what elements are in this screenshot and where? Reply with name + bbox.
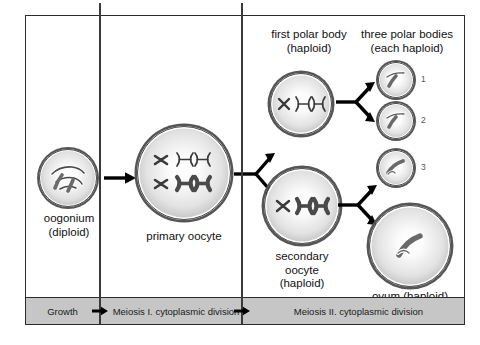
primary-oocyte-chromosomes: [138, 127, 230, 219]
timeline-divider-2: [241, 3, 243, 324]
first-polar-body-chromosomes: [271, 74, 331, 134]
timeline-phase-meiosis-2: Meiosis II. cytoplasmic division: [254, 298, 463, 324]
polar-body-number-1: 1: [421, 74, 426, 84]
timeline-arrow-2: [234, 306, 251, 316]
label-oogonium: oogonium (diploid): [28, 212, 110, 239]
label-three-polar-bodies: three polar bodies (each haploid): [348, 28, 466, 55]
polar-body-number-2: 2: [421, 115, 426, 125]
label-primary-oocyte: primary oocyte: [132, 230, 236, 244]
cell-secondary-oocyte: [264, 168, 340, 244]
cell-polar-body-2: [378, 103, 414, 139]
timeline-divider-1: [99, 3, 101, 324]
polar-body-1-chromosomes: [379, 63, 413, 97]
polar-body-number-3: 3: [421, 162, 426, 172]
timeline-phase-growth: Growth: [26, 298, 99, 324]
oogenesis-diagram: oogonium (diploid): [25, 15, 465, 325]
ovum-chromosomes: [370, 206, 450, 286]
timeline-bar: Growth Meiosis I. cytoplasmic division M…: [26, 297, 464, 324]
secondary-oocyte-chromosomes: [265, 169, 339, 243]
cell-polar-body-3: [378, 150, 414, 186]
cell-first-polar-body: [270, 73, 332, 135]
arrow-oogonium-to-primary-oocyte: [104, 171, 138, 185]
arrow-first-polar-body-branch: [336, 78, 380, 126]
timeline-arrow-1: [92, 306, 109, 316]
cell-ovum: [369, 205, 451, 287]
cell-polar-body-1: [378, 62, 414, 98]
label-secondary-oocyte: secondary oocyte (haploid): [252, 250, 352, 291]
oogonium-chromosomes: [40, 150, 96, 206]
polar-body-2-chromosomes: [379, 104, 413, 138]
polar-body-3-chromosomes: [379, 151, 413, 185]
cell-oogonium: [39, 149, 97, 207]
timeline-phase-meiosis-1: Meiosis I. cytoplasmic division: [111, 298, 241, 324]
cell-primary-oocyte: [137, 126, 231, 220]
